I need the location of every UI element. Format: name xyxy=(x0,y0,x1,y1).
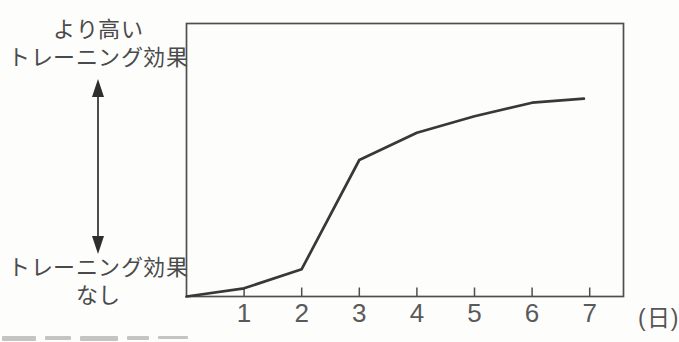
line-chart-plot-area: 1234567 xyxy=(0,0,679,342)
caption-remnant-mark xyxy=(127,336,149,340)
training-effect-curve xyxy=(187,99,584,297)
training-effect-figure: より高い トレーニング効果 トレーニング効果 なし 1234567 (日) xyxy=(0,0,679,342)
x-tick-label: 7 xyxy=(582,298,596,328)
caption-remnant-mark xyxy=(45,336,71,340)
caption-remnant-mark xyxy=(80,336,118,341)
caption-remnant-mark xyxy=(2,336,36,341)
x-tick-label: 4 xyxy=(410,298,424,328)
x-axis-unit-label: (日) xyxy=(638,299,679,333)
x-tick-label: 5 xyxy=(467,298,481,328)
x-tick-label: 6 xyxy=(525,298,539,328)
x-tick-label: 1 xyxy=(237,298,251,328)
caption-remnant-mark xyxy=(158,336,188,339)
cropped-caption-remnant xyxy=(2,336,188,342)
x-tick-label: 2 xyxy=(294,298,308,328)
x-tick-label: 3 xyxy=(352,298,366,328)
plot-frame xyxy=(187,24,624,297)
